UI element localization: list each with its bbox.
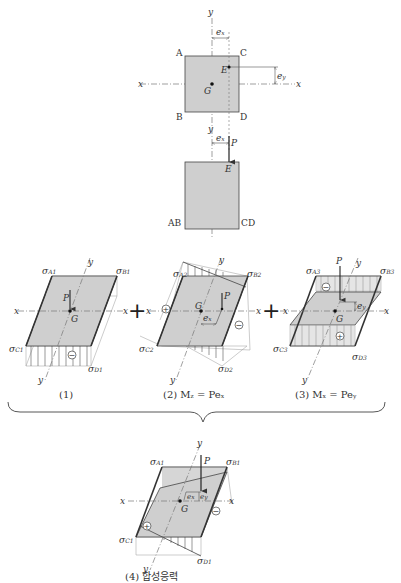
svg-text:σB1: σB1 <box>226 457 240 467</box>
svg-text:y: y <box>355 258 362 268</box>
panel-4-sign-plus: + <box>144 522 151 531</box>
point-g-label: G <box>204 86 211 96</box>
panel-1-centroid-label: G <box>71 314 78 324</box>
panel-4-centroid-label: G <box>181 504 188 514</box>
svg-text:x: x <box>229 496 234 506</box>
panel-2-caption: (2) M <box>163 389 191 400</box>
svg-text:σC1: σC1 <box>9 344 24 354</box>
svg-text:ex: ex <box>187 493 195 501</box>
svg-text:σA2: σA2 <box>173 269 187 279</box>
panel-1-caption: (1) <box>59 389 73 400</box>
elev-cd-label: CD <box>241 218 255 228</box>
panel-2-bending-z: + − y y x x P G ex σA2 σB2 σC2 σD2 (2) M… <box>139 255 262 400</box>
panel-2-load-label: P <box>223 291 231 301</box>
svg-text:x: x <box>120 496 125 506</box>
svg-text:ex: ex <box>203 313 212 323</box>
corner-d-label: D <box>240 112 247 122</box>
elev-load-label: P <box>230 138 238 148</box>
svg-text:ey: ey <box>357 301 366 311</box>
panel-2-sign-plus: + <box>163 305 170 314</box>
panel-3-caption: (3) M <box>295 389 323 400</box>
svg-text:σC2: σC2 <box>139 344 154 354</box>
panel-2-sign-minus: − <box>236 321 243 330</box>
svg-text:ex: ex <box>216 133 225 143</box>
svg-text:σC3: σC3 <box>273 344 288 354</box>
panel-1-axial: − y y x x P G σA1 σB1 σC1 σD1 (1) <box>9 257 130 400</box>
panel-3-load-label: P <box>335 256 343 266</box>
panel-4-sign-minus: − <box>213 507 220 516</box>
plan-x-label-left: x <box>138 79 143 89</box>
svg-text:σB3: σB3 <box>380 266 395 276</box>
panel-1-load-label: P <box>62 293 70 303</box>
svg-text:σA3: σA3 <box>306 266 320 276</box>
svg-text:σB1: σB1 <box>116 266 130 276</box>
svg-text:σB2: σB2 <box>247 269 262 279</box>
svg-text:x: x <box>256 306 261 316</box>
panel-3-sign-plus: + <box>337 332 344 341</box>
plan-y-label-top: y <box>207 7 214 17</box>
svg-text:σD1: σD1 <box>88 364 103 374</box>
svg-text:σC1: σC1 <box>119 535 134 545</box>
svg-text:σD1: σD1 <box>197 556 212 566</box>
svg-text:y: y <box>196 438 203 448</box>
svg-text:x: x <box>146 306 151 316</box>
svg-text:x: x <box>384 306 389 316</box>
elev-ab-label: AB <box>167 218 181 228</box>
svg-text:(3) Mx = Pey: (3) Mx = Pey <box>295 389 357 400</box>
svg-text:ey: ey <box>200 493 208 501</box>
plus-operator-1: + <box>128 298 146 323</box>
elevation-view: ex P E AB CD <box>167 133 255 238</box>
corner-b-label: B <box>176 112 183 122</box>
plus-operator-2: + <box>262 298 280 323</box>
panel-3-sign-minus: − <box>323 283 330 292</box>
svg-text:y: y <box>301 375 308 385</box>
point-e-dot <box>227 65 230 68</box>
panel-4-load-label: P <box>203 456 211 466</box>
corner-a-label: A <box>175 48 183 58</box>
svg-text:σD3: σD3 <box>352 352 367 362</box>
svg-text:ex: ex <box>216 27 225 37</box>
elev-point-e-label: E <box>224 164 232 174</box>
svg-text:y: y <box>37 375 44 385</box>
corner-c-label: C <box>240 48 247 58</box>
panel-4-combined-stress: + − y y x x P G ex ey σA1 σB1 σC1 σD1 (4… <box>119 438 240 582</box>
panel-1-sign: − <box>69 351 76 360</box>
panel-3-centroid-label: G <box>336 314 343 324</box>
svg-text:y: y <box>87 257 94 267</box>
panel-3-bending-x: − + y y x x P G ey σA3 σB3 σC3 σD3 (3) M… <box>273 256 395 400</box>
svg-text:σA1: σA1 <box>42 266 56 276</box>
svg-text:y: y <box>169 375 176 385</box>
svg-text:σD2: σD2 <box>218 364 233 374</box>
svg-text:x: x <box>283 306 288 316</box>
panel-4-caption: (4) 합성응력 <box>125 571 178 582</box>
plan-y-label-bottom: y <box>207 124 214 134</box>
plan-view: y y x x A C B D E G ex ey <box>138 7 301 150</box>
eccentric-load-diagram: y y x x A C B D E G ex ey ex P E AB CD <box>0 0 401 583</box>
panel-2-centroid-label: G <box>195 301 202 311</box>
svg-text:y: y <box>218 255 225 265</box>
svg-text:x: x <box>14 306 19 316</box>
svg-text:σA1: σA1 <box>150 457 164 467</box>
plan-x-label-right: x <box>296 79 301 89</box>
svg-text:ey: ey <box>277 71 286 81</box>
svg-text:(2) Mz = Pex: (2) Mz = Pex <box>163 389 225 400</box>
point-e-label: E <box>220 65 228 75</box>
summation-brace <box>8 402 385 422</box>
